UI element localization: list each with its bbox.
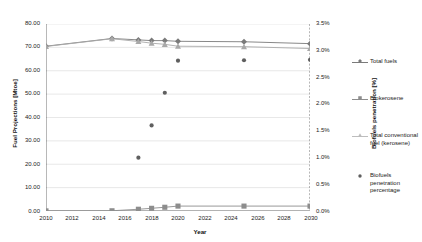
x-tick: 2016: [110, 215, 140, 221]
legend-marker-square-icon: [352, 95, 368, 103]
y-left-tick: 30.00: [10, 137, 40, 143]
y-right-tick: 0.0%: [316, 208, 346, 214]
y-right-tick: 3.5%: [316, 20, 346, 26]
y-left-tick: 10.00: [10, 184, 40, 190]
y-left-tick: 20.00: [10, 161, 40, 167]
y-left-tick: 80.00: [10, 20, 40, 26]
y-left-tick: 60.00: [10, 67, 40, 73]
x-axis-title: Year: [100, 228, 300, 235]
x-tick: 2030: [296, 215, 326, 221]
legend-label: Total conventional fuel (kerosene): [370, 132, 422, 147]
y-axis-right-title: Biofuels penetration [%]: [370, 54, 377, 174]
y-left-tick: 40.00: [10, 114, 40, 120]
plot-svg: [46, 24, 310, 211]
x-tick: 2020: [163, 215, 193, 221]
y-left-tick: 0.00: [10, 208, 40, 214]
legend-marker-triangle-icon: [352, 132, 368, 140]
series-layer: [46, 35, 310, 211]
legend-item-total-conventional-fuel[interactable]: Total conventional fuel (kerosene): [352, 132, 422, 147]
y-right-tick: 1.0%: [316, 154, 346, 160]
legend-item-total-fuels[interactable]: Total fuels: [352, 58, 397, 66]
plot-area: [46, 24, 310, 211]
chart-container: Fuel Projections [Mtoe] Biofuels penetra…: [0, 0, 422, 242]
y-left-tick: 70.00: [10, 43, 40, 49]
y-right-tick: 3.0%: [316, 47, 346, 53]
legend-label: Biofuels penetration percentage: [370, 172, 422, 195]
y-right-tick: 2.5%: [316, 74, 346, 80]
x-tick: 2012: [57, 215, 87, 221]
y-right-tick: 0.5%: [316, 181, 346, 187]
legend-item-biokerosene[interactable]: Biokerosene: [352, 95, 403, 103]
x-tick: 2024: [216, 215, 246, 221]
legend-item-biofuels-penetration[interactable]: Biofuels penetration percentage: [352, 172, 422, 195]
x-tick: 2028: [269, 215, 299, 221]
legend-marker-diamond-icon: [352, 58, 368, 66]
y-right-tick: 1.5%: [316, 127, 346, 133]
y-left-tick: 50.00: [10, 90, 40, 96]
y-right-tick: 2.0%: [316, 100, 346, 106]
legend-marker-dot-icon: [352, 172, 368, 180]
legend-label: Biokerosene: [370, 95, 403, 103]
gridlines: [46, 24, 310, 211]
legend-label: Total fuels: [370, 58, 397, 66]
